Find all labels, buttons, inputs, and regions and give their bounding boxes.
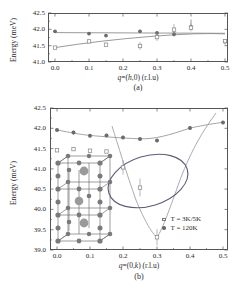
panel-b-series-3k5k xyxy=(57,147,157,245)
panel-b-ytick-41-0: 41.0 xyxy=(20,165,46,173)
phonon-dispersion-figure: Energy (meV) xyxy=(0,0,233,297)
panel-b-xlabel: q=(0,k) (r.l.u) xyxy=(50,261,228,270)
crystal-structure-inset xyxy=(55,154,112,244)
panel-b-xtick-0-5: 0.5 xyxy=(213,252,233,260)
panel-b-xtick-0-4: 0.4 xyxy=(180,252,200,260)
panel-a-xlabel: q=(h,0) (r.l.u) xyxy=(48,73,228,82)
panel-b-tag: (b) xyxy=(50,272,228,281)
panel-b-ytick-41-5: 41.5 xyxy=(20,145,46,153)
panel-a-xtick-0-3: 0.3 xyxy=(147,64,167,72)
panel-b-dip-left-branch xyxy=(112,126,157,238)
panel-b-xtick-0-3: 0.3 xyxy=(147,252,167,260)
panel-a-ytick-41-5: 41.5 xyxy=(20,42,45,50)
legend: T = 3K/5K T = 120K xyxy=(160,215,201,232)
panel-b-ticks xyxy=(50,108,228,250)
panel-b-ytick-39-5: 39.5 xyxy=(20,226,46,234)
panel-b-markers-120k xyxy=(55,121,225,143)
open-square-icon xyxy=(160,218,168,221)
legend-label-3k5k: T = 3K/5K xyxy=(171,215,202,224)
panel-b-markers-3k5k xyxy=(55,147,158,239)
panel-b-xtick-0-2: 0.2 xyxy=(113,252,133,260)
panel-a-ytick-41-0: 41.0 xyxy=(20,58,45,66)
legend-item-3k5k[interactable]: T = 3K/5K xyxy=(160,215,201,224)
panel-b-xtick-0-0: 0.0 xyxy=(47,252,67,260)
panel-b-xtick-0-1: 0.1 xyxy=(80,252,100,260)
panel-a-tag: (a) xyxy=(48,83,228,92)
panel-b-ytick-40-5: 40.5 xyxy=(20,185,46,193)
panel-a-xtick-0-5: 0.5 xyxy=(215,64,233,72)
filled-circle-icon xyxy=(160,226,168,229)
panel-b: Energy (meV) xyxy=(0,100,233,297)
panel-b-ytick-42-0: 42.0 xyxy=(20,124,46,132)
panel-a-markers-120k xyxy=(53,25,227,43)
panel-a-xtick-0-2: 0.2 xyxy=(113,64,133,72)
panel-b-xlabel-eq: =(0, xyxy=(123,261,135,270)
kohn-anomaly-ellipse xyxy=(101,145,194,217)
panel-a-xtick-0-0: 0.0 xyxy=(45,64,65,72)
panel-b-xlabel-rest: ) (r.l.u) xyxy=(138,261,159,270)
legend-label-120k: T = 120K xyxy=(171,224,198,233)
panel-b-ytick-42-5: 42.5 xyxy=(20,104,46,112)
panel-a-ytick-42-5: 42.5 xyxy=(20,9,45,17)
panel-a-xtick-0-1: 0.1 xyxy=(79,64,99,72)
panel-a-xtick-0-4: 0.4 xyxy=(181,64,201,72)
legend-item-120k[interactable]: T = 120K xyxy=(160,224,201,233)
panel-b-fit-120k xyxy=(57,122,223,139)
panel-b-ytick-40-0: 40.0 xyxy=(20,205,46,213)
panel-b-ytick-39-0: 39.0 xyxy=(20,246,46,254)
panel-a-xlabel-rest: ,0) (r.l.u) xyxy=(132,73,159,82)
panel-a-ytick-42-0: 42.0 xyxy=(20,25,45,33)
panel-a: Energy (meV) xyxy=(0,0,233,95)
